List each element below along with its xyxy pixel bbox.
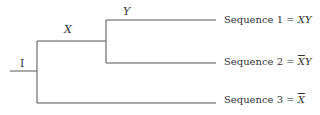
sequence-2-prefix: Sequence 2 = <box>224 56 298 67</box>
sequence-2-term-y: Y <box>305 56 312 67</box>
sequence-3-term-xbar: X <box>298 94 305 105</box>
branch-y-label: Y <box>123 6 130 18</box>
sequence-2-label: Sequence 2 = XY <box>224 56 312 68</box>
branch-x-label: X <box>64 24 72 36</box>
sequence-3-label: Sequence 3 = X <box>224 94 305 106</box>
sequence-2-term-xbar: X <box>298 56 305 67</box>
sequence-1-term-x: X <box>298 14 305 25</box>
sequence-1-prefix: Sequence 1 = <box>224 14 298 25</box>
sequence-1-label: Sequence 1 = XY <box>224 14 312 26</box>
sequence-1-term-y: Y <box>305 14 312 25</box>
initiator-label: I <box>20 58 24 70</box>
sequence-3-prefix: Sequence 3 = <box>224 94 298 105</box>
